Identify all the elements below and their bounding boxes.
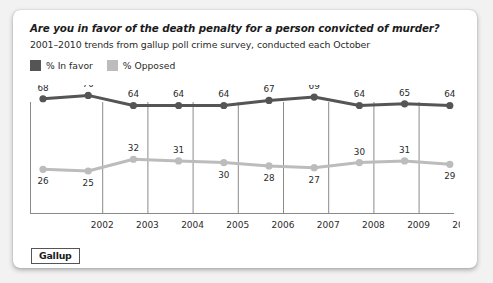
x-axis-tick-label: 2004 xyxy=(181,220,204,230)
data-label: 32 xyxy=(128,143,139,153)
legend-item-in-favor: % In favor xyxy=(30,60,93,71)
data-label: 31 xyxy=(173,145,184,155)
x-axis-tick-label: 2002 xyxy=(91,220,114,230)
legend-swatch-opposed xyxy=(107,60,118,71)
data-label: 26 xyxy=(37,176,49,186)
x-axis-tick-label: 2009 xyxy=(407,220,430,230)
data-label: 27 xyxy=(309,175,320,185)
legend-label-in-favor: % In favor xyxy=(46,60,93,71)
chart-title: Are you in favor of the death penalty fo… xyxy=(30,22,440,34)
data-label: 67 xyxy=(263,85,274,94)
x-axis-tick-label: 2007 xyxy=(317,220,340,230)
chart-card: Are you in favor of the death penalty fo… xyxy=(13,10,477,268)
data-label: 70 xyxy=(83,85,95,89)
chart-plot-area: 2625323130282730312968706464646769646564… xyxy=(30,85,460,230)
legend-swatch-in-favor xyxy=(30,60,41,71)
x-axis-tick-label: 2003 xyxy=(136,220,159,230)
x-axis-tick-label: 2006 xyxy=(272,220,295,230)
data-label: 64 xyxy=(218,89,230,99)
data-label: 68 xyxy=(37,85,48,93)
data-label: 65 xyxy=(399,88,410,98)
x-axis-tick-label: 2008 xyxy=(362,220,385,230)
chart-subtitle: 2001–2010 trends from gallup poll crime … xyxy=(30,39,370,50)
data-label: 29 xyxy=(444,171,455,181)
gallup-logo-label: Gallup xyxy=(39,251,72,260)
legend-item-opposed: % Opposed xyxy=(107,60,175,71)
x-axis-tick-label: 2005 xyxy=(226,220,249,230)
data-label: 64 xyxy=(128,89,140,99)
data-label: 64 xyxy=(173,89,185,99)
data-label: 64 xyxy=(354,89,366,99)
data-label: 64 xyxy=(444,89,456,99)
gallup-logo: Gallup xyxy=(31,248,80,264)
line-chart: 2625323130282730312968706464646769646564… xyxy=(30,85,460,230)
screenshot-stage: Are you in favor of the death penalty fo… xyxy=(0,0,493,283)
data-label: 69 xyxy=(309,85,320,91)
chart-legend: % In favor % Opposed xyxy=(30,60,175,71)
legend-label-opposed: % Opposed xyxy=(123,60,175,71)
data-label: 31 xyxy=(399,145,410,155)
data-label: 25 xyxy=(83,178,94,188)
data-label: 28 xyxy=(263,173,274,183)
data-label: 30 xyxy=(218,170,230,180)
x-axis-tick-label: 2010 xyxy=(452,220,460,230)
data-label: 30 xyxy=(354,147,366,157)
